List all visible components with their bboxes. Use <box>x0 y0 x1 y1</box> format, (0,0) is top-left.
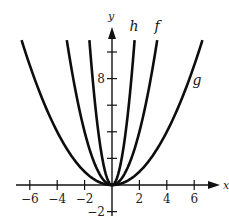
parabola-chart: x y −6−4−2246 8−2 hfg <box>0 0 229 218</box>
x-tick-label: −6 <box>21 192 39 206</box>
x-axis-arrow-icon <box>208 181 220 189</box>
y-tick-label: −2 <box>87 205 105 218</box>
curve-label-g: g <box>192 72 201 88</box>
x-axis-label: x <box>223 179 229 192</box>
y-axis-arrow-icon <box>108 27 116 39</box>
curve-label-f: f <box>154 18 163 34</box>
curve-label-h: h <box>129 18 138 34</box>
y-tick-label: 8 <box>97 72 105 86</box>
x-tick-label: −4 <box>48 192 66 206</box>
y-axis-label: y <box>107 10 115 23</box>
x-tick-label: 6 <box>190 192 198 206</box>
x-tick-label: 4 <box>163 192 171 206</box>
x-tick-label: 2 <box>136 192 144 206</box>
